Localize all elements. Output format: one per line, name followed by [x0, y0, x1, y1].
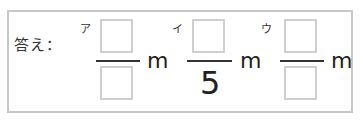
fraction-u-unit: m [331, 48, 352, 73]
fraction-a-unit: m [147, 48, 168, 73]
fraction-a-bar [96, 60, 140, 62]
fraction-a-numerator-box[interactable] [100, 19, 133, 53]
fraction-u-tag: ウ [261, 20, 272, 36]
fraction-a-tag: ア [80, 20, 91, 36]
answer-label: 答え： [14, 33, 62, 54]
fraction-i-tag: イ [172, 20, 183, 36]
fraction-i-numerator-box[interactable] [192, 19, 225, 53]
fraction-i-denominator: 5 [200, 64, 220, 102]
fraction-i-bar [187, 60, 232, 62]
fraction-i-unit: m [240, 48, 261, 73]
fraction-a-denominator-box[interactable] [100, 66, 133, 100]
fraction-u-bar [280, 60, 324, 62]
fraction-u-numerator-box[interactable] [284, 19, 317, 53]
fraction-u-denominator-box[interactable] [284, 66, 317, 100]
